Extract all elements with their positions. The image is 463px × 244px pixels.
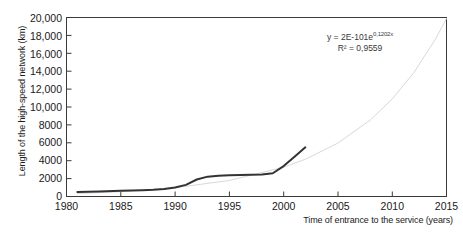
r-squared-text: R² = 0,9559	[300, 43, 420, 54]
x-tick-label: 2000	[259, 200, 309, 212]
x-tick-label: 2005	[313, 200, 363, 212]
x-tick-label: 2010	[367, 200, 417, 212]
x-axis-tick-labels: 1980 1985 1990 1995 2000 2005 2010 2015	[0, 200, 463, 216]
x-axis-ticks	[121, 192, 393, 197]
x-tick-label: 1990	[150, 200, 200, 212]
trendline-equation-annotation: y = 2E-101e0,1202x R² = 0,9559	[300, 29, 420, 54]
y-axis-ticks	[67, 35, 72, 178]
x-tick-label: 1995	[204, 200, 254, 212]
equation-text: y = 2E-101e	[327, 32, 373, 42]
equation-exponent: 0,1202x	[373, 31, 393, 37]
x-tick-label: 1980	[42, 200, 92, 212]
x-tick-label: 1985	[96, 200, 146, 212]
x-axis-title: Time of entrance to the service (years)	[243, 215, 453, 225]
chart-figure: Length of the high-speed network (km) 20…	[0, 0, 463, 244]
x-tick-label: 2015	[422, 200, 463, 212]
